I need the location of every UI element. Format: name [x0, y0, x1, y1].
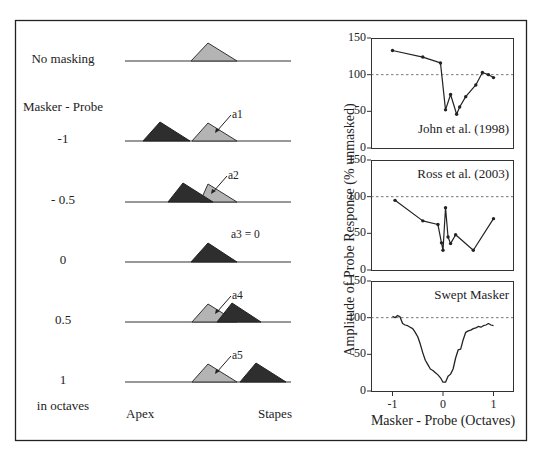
data-point: [474, 83, 477, 86]
apex-label: Apex: [126, 406, 154, 422]
annotation-3: a3 = 0: [231, 228, 260, 240]
data-point: [455, 113, 458, 116]
x-axis-label: Masker - Probe (Octaves): [371, 413, 515, 429]
data-point: [421, 219, 424, 222]
data-point: [444, 206, 447, 209]
x-tick-label: -1: [388, 397, 398, 412]
annotation-arrow: [217, 356, 231, 372]
data-series-2: [393, 315, 494, 382]
data-point: [441, 249, 444, 252]
data-point: [472, 249, 475, 252]
annotation-arrow: [213, 176, 227, 192]
masker-excitation: [217, 303, 261, 322]
row-label-2: - 0.5: [51, 192, 75, 208]
probe-excitation: [192, 364, 237, 382]
stapes-label: Stapes: [258, 406, 292, 422]
annotation-4: a4: [232, 289, 243, 301]
panel-title-2: Swept Masker: [371, 287, 509, 303]
data-point: [458, 105, 461, 108]
row-label-1: -1: [58, 131, 69, 147]
annotation-arrow: [217, 115, 231, 131]
data-point: [446, 235, 449, 238]
probe-excitation: [191, 43, 237, 61]
panel-title-1: Ross et al. (2003): [371, 166, 509, 182]
figure-canvas: [0, 0, 540, 455]
data-point: [492, 76, 495, 79]
data-point: [492, 217, 495, 220]
data-point: [449, 93, 452, 96]
row-label-3: 0: [60, 252, 67, 268]
data-point: [449, 242, 452, 245]
annotation-5: a5: [232, 349, 243, 361]
masker-excitation: [240, 363, 286, 382]
probe-excitation: [192, 123, 237, 141]
row-label-0: No masking: [31, 51, 94, 67]
units-label: in octaves: [37, 398, 89, 414]
data-series-0: [393, 50, 494, 114]
y-axis-label: Amplitude of Probe Response (% unmasked): [342, 103, 358, 356]
y-tick-label: 0: [336, 383, 366, 398]
data-point: [464, 95, 467, 98]
data-point: [481, 71, 484, 74]
data-point: [391, 49, 394, 52]
x-tick-label: 1: [491, 397, 497, 412]
data-point: [454, 233, 457, 236]
row-label-5: 1: [60, 372, 67, 388]
data-point: [487, 73, 490, 76]
y-tick-label: 100: [336, 67, 366, 82]
masker-probe-header: Masker - Probe: [23, 99, 103, 115]
masker-excitation: [191, 243, 237, 262]
masker-excitation: [143, 122, 190, 141]
data-point: [421, 55, 424, 58]
panel-title-0: John et al. (1998): [371, 121, 509, 137]
data-point: [439, 61, 442, 64]
annotation-2: a2: [228, 169, 239, 181]
x-tick-label: 0: [440, 397, 446, 412]
data-point: [436, 223, 439, 226]
y-tick-label: 150: [336, 30, 366, 45]
data-point: [393, 199, 396, 202]
annotation-1: a1: [232, 108, 243, 120]
data-point: [440, 241, 443, 244]
row-label-4: 0.5: [55, 312, 71, 328]
data-point: [444, 108, 447, 111]
